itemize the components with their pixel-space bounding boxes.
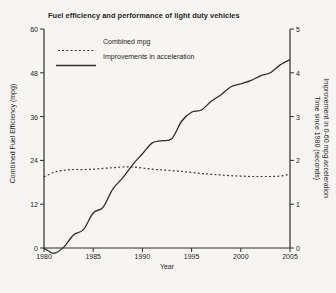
x-tick-label: 1985 [85, 253, 101, 260]
y-left-tick-label: 48 [30, 69, 38, 76]
y-right-tick-label: 5 [296, 26, 300, 33]
series-acceleration [44, 60, 290, 254]
x-tick-label: 1980 [36, 253, 52, 260]
x-tick-label: 2000 [233, 253, 249, 260]
chart-figure: Fuel efficiency and performance of light… [0, 0, 336, 293]
axes-frame [44, 29, 290, 248]
y-right-tick-label: 1 [296, 201, 300, 208]
x-tick-label: 2005 [282, 253, 298, 260]
y-right-tick-label: 4 [296, 69, 300, 76]
plot-area [0, 0, 336, 293]
y-right-tick-label: 2 [296, 157, 300, 164]
y-left-tick-label: 24 [30, 157, 38, 164]
series-combined-mpg [44, 167, 290, 177]
x-tick-label: 1990 [135, 253, 151, 260]
y-left-tick-label: 0 [34, 245, 38, 252]
y-left-tick-label: 60 [30, 26, 38, 33]
x-tick-label: 1995 [184, 253, 200, 260]
y-left-tick-label: 36 [30, 113, 38, 120]
y-right-tick-label: 3 [296, 113, 300, 120]
y-right-tick-label: 0 [296, 245, 300, 252]
y-left-tick-label: 12 [30, 201, 38, 208]
